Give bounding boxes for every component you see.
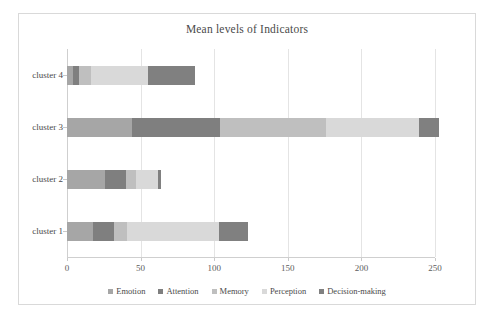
x-axis-line xyxy=(67,257,435,258)
y-axis-label-cluster-4: cluster 4 xyxy=(32,70,63,80)
y-axis-label-cluster-2: cluster 2 xyxy=(32,174,63,184)
legend-label: Decision-making xyxy=(327,286,386,296)
legend-item-emotion[interactable]: Emotion xyxy=(108,286,145,296)
bar-segment-perception[interactable] xyxy=(326,118,419,137)
bar-segment-decision-making[interactable] xyxy=(148,66,195,85)
legend-item-attention[interactable]: Attention xyxy=(158,286,198,296)
x-tick-label-50: 50 xyxy=(136,263,145,273)
legend-swatch-icon xyxy=(108,289,113,294)
legend-item-perception[interactable]: Perception xyxy=(262,286,306,296)
y-axis-label-cluster-3: cluster 3 xyxy=(32,122,63,132)
x-tick-mark-200 xyxy=(361,258,362,261)
x-tick-mark-50 xyxy=(141,258,142,261)
x-tick-label-0: 0 xyxy=(65,263,70,273)
y-tick-mark-3 xyxy=(63,75,67,76)
legend-item-memory[interactable]: Memory xyxy=(212,286,249,296)
x-tick-label-150: 150 xyxy=(281,263,295,273)
bar-segment-attention[interactable] xyxy=(132,118,220,137)
chart-container: Mean levels of Indicators cluster 1clust… xyxy=(18,13,476,305)
gridline-x-250 xyxy=(435,49,436,257)
legend-swatch-icon xyxy=(158,289,163,294)
bar-row xyxy=(67,118,435,137)
y-tick-mark-2 xyxy=(63,127,67,128)
x-tick-label-200: 200 xyxy=(355,263,369,273)
bar-segment-perception[interactable] xyxy=(136,170,158,189)
bar-row xyxy=(67,222,435,241)
legend-label: Memory xyxy=(220,286,249,296)
x-tick-mark-250 xyxy=(435,258,436,261)
y-tick-mark-0 xyxy=(63,231,67,232)
bar-segment-emotion[interactable] xyxy=(67,118,132,137)
chart-legend: EmotionAttentionMemoryPerceptionDecision… xyxy=(19,286,475,296)
bar-row xyxy=(67,66,435,85)
bar-segment-emotion[interactable] xyxy=(67,170,105,189)
legend-label: Emotion xyxy=(116,286,145,296)
bar-segment-memory[interactable] xyxy=(220,118,326,137)
x-tick-mark-0 xyxy=(67,258,68,261)
plot-area xyxy=(67,49,435,257)
chart-title: Mean levels of Indicators xyxy=(19,23,475,35)
x-tick-label-100: 100 xyxy=(207,263,221,273)
bar-segment-attention[interactable] xyxy=(93,222,114,241)
legend-item-decision-making[interactable]: Decision-making xyxy=(319,286,386,296)
bar-segment-decision-making[interactable] xyxy=(419,118,440,137)
bar-segment-memory[interactable] xyxy=(126,170,136,189)
x-tick-label-250: 250 xyxy=(428,263,442,273)
bar-segment-memory[interactable] xyxy=(79,66,91,85)
bar-segment-decision-making[interactable] xyxy=(219,222,248,241)
bar-segment-attention[interactable] xyxy=(105,170,126,189)
bar-segment-perception[interactable] xyxy=(91,66,148,85)
bar-segment-decision-making[interactable] xyxy=(158,170,161,189)
y-tick-mark-1 xyxy=(63,179,67,180)
legend-label: Attention xyxy=(166,286,198,296)
bar-segment-perception[interactable] xyxy=(127,222,218,241)
legend-swatch-icon xyxy=(212,289,217,294)
legend-swatch-icon xyxy=(319,289,324,294)
x-tick-mark-150 xyxy=(288,258,289,261)
bar-segment-memory[interactable] xyxy=(114,222,127,241)
y-axis-label-cluster-1: cluster 1 xyxy=(32,226,63,236)
bar-segment-emotion[interactable] xyxy=(67,222,93,241)
x-tick-mark-100 xyxy=(214,258,215,261)
legend-swatch-icon xyxy=(262,289,267,294)
legend-label: Perception xyxy=(270,286,306,296)
bar-row xyxy=(67,170,435,189)
y-axis-category-labels: cluster 1cluster 2cluster 3cluster 4 xyxy=(19,49,63,257)
